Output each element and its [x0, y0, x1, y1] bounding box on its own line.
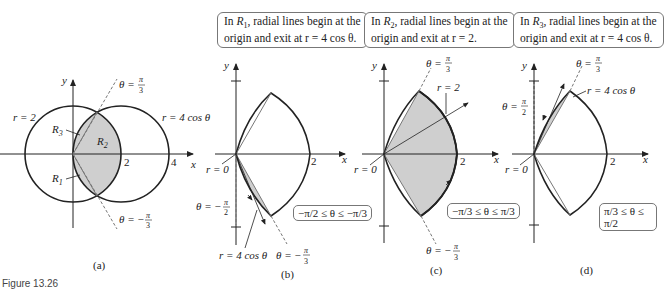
- label-theta-neg-pi-3-a: θ = −: [119, 213, 145, 225]
- label-R3-a: R3: [51, 123, 63, 138]
- label-r-0-d: r = 0: [505, 163, 528, 175]
- tick-2-a: 2: [124, 156, 130, 168]
- svg-text:2: 2: [311, 155, 317, 167]
- svg-text:π: π: [304, 246, 309, 255]
- figure-caption: Figure 13.26: [2, 278, 58, 289]
- lens-d: [534, 91, 607, 215]
- panel-b: y x 2 r = 0 θ = − π 2 r = 4 cos θ θ = − …: [196, 59, 347, 281]
- label-r-0-c: r = 0: [354, 163, 377, 175]
- svg-text:x: x: [341, 153, 347, 165]
- label-theta-neg-pi-3-c: θ = −: [426, 244, 452, 256]
- label-theta-neg-pi-3-b: θ = −: [276, 249, 302, 261]
- svg-text:y: y: [223, 59, 229, 71]
- label-r-4cos-a: r = 4 cos θ: [162, 111, 211, 123]
- label-r-4cos-b: r = 4 cos θ: [219, 249, 268, 261]
- range-box-c: −π/3 ≤ θ ≤ π/3: [447, 203, 520, 219]
- label-theta-pi-3-d: θ =: [576, 57, 592, 69]
- label-r-0-b: r = 0: [206, 163, 229, 175]
- svg-text:3: 3: [446, 65, 450, 74]
- label-c: (c): [430, 264, 443, 277]
- svg-text:2: 2: [522, 108, 526, 117]
- svg-text:x: x: [642, 153, 648, 165]
- svg-text:x: x: [493, 153, 499, 165]
- label-theta-pi-3-a: θ =: [119, 78, 135, 90]
- note-box-b: In R1, radial lines begin at the origin …: [217, 12, 368, 48]
- svg-text:3: 3: [146, 221, 150, 230]
- svg-text:2: 2: [224, 208, 228, 217]
- svg-text:π: π: [454, 242, 459, 251]
- svg-text:π: π: [596, 54, 601, 63]
- note-box-d: In R3, radial lines begin at the origin …: [513, 12, 664, 48]
- label-theta-neg-pi-2-b: θ = −: [196, 200, 222, 212]
- panel-c: y x 2 r = 0 r = 2 θ = π 3 θ = − π 3 (c): [354, 54, 499, 277]
- svg-text:2: 2: [460, 155, 466, 167]
- svg-text:3: 3: [596, 65, 600, 74]
- svg-text:2: 2: [610, 155, 616, 167]
- range-box-b: −π/2 ≤ θ ≤ −π/3: [293, 205, 372, 221]
- label-r-2-c: r = 2: [437, 81, 460, 93]
- label-r-2: r = 2: [13, 111, 36, 123]
- panel-d: y x 2 r = 0 r = 4 cos θ θ = π 3 θ = π 2 …: [502, 54, 648, 277]
- tick-4-a: 4: [171, 156, 177, 168]
- svg-text:3: 3: [139, 86, 143, 95]
- label-b: (b): [281, 268, 294, 281]
- x-label-a: x: [190, 158, 196, 170]
- svg-text:π: π: [139, 75, 144, 84]
- svg-text:y: y: [521, 59, 527, 71]
- panel-a: y x 2 4 r = 2 r = 4 cos θ R3 R2 R1 θ = π…: [0, 74, 211, 230]
- svg-text:3: 3: [304, 257, 308, 266]
- range-box-d: π/3 ≤ θ ≤ π/2: [599, 203, 657, 231]
- label-theta-pi-3-c: θ =: [426, 57, 442, 69]
- label-r-4cos-d: r = 4 cos θ: [587, 84, 636, 96]
- y-label-a: y: [61, 74, 67, 86]
- label-d: (d): [580, 264, 593, 277]
- svg-text:π: π: [224, 198, 229, 207]
- svg-text:3: 3: [454, 253, 458, 262]
- label-theta-pi-2-d: θ =: [502, 100, 518, 112]
- label-R1-a: R1: [51, 172, 63, 187]
- label-a: (a): [93, 259, 106, 272]
- note-box-c: In R2, radial lines begin at the origin …: [364, 12, 515, 48]
- svg-text:y: y: [371, 59, 377, 71]
- svg-text:π: π: [146, 211, 151, 220]
- svg-text:π: π: [522, 97, 527, 106]
- svg-text:π: π: [446, 54, 451, 63]
